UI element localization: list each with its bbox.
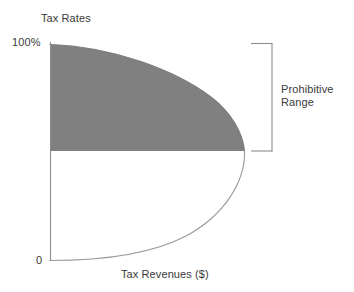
prohibitive-range-label-line-2: Range: [281, 96, 314, 108]
prohibitive-range-label: ProhibitiveRange: [281, 83, 333, 109]
x-axis-title: Tax Revenues ($): [121, 268, 209, 281]
y-axis-title: Tax Rates: [41, 12, 91, 25]
prohibitive-range-label-line-1: Prohibitive: [281, 83, 333, 95]
laffer-curve-figure: [0, 0, 354, 292]
y-axis-tick-label-100: 100%: [12, 36, 41, 49]
y-axis-tick-label-0: 0: [36, 254, 42, 267]
